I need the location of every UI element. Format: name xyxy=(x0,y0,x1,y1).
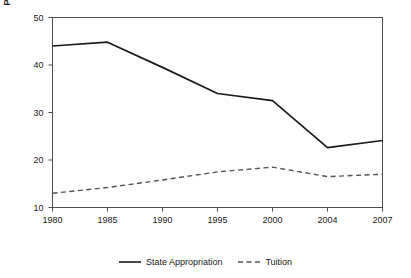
series-lines xyxy=(53,42,383,193)
x-axis-ticks xyxy=(53,208,383,212)
legend-swatch-dashed-icon xyxy=(238,258,260,266)
legend-label-tuition: Tuition xyxy=(265,257,292,267)
line-chart-figure: Percentage of Revenues 1020304050 198019… xyxy=(0,0,411,278)
y-axis-ticks xyxy=(49,18,53,208)
series-line-tuition xyxy=(53,167,383,193)
series-line-state-appropriation xyxy=(53,42,383,147)
legend-swatch-solid-icon xyxy=(119,258,141,266)
plot-border xyxy=(53,18,383,208)
legend-item-tuition: Tuition xyxy=(238,257,292,267)
chart-legend: State Appropriation Tuition xyxy=(0,252,411,272)
legend-item-state-appropriation: State Appropriation xyxy=(119,257,223,267)
legend-label-state-appropriation: State Appropriation xyxy=(146,257,223,267)
plot-area xyxy=(0,0,411,278)
